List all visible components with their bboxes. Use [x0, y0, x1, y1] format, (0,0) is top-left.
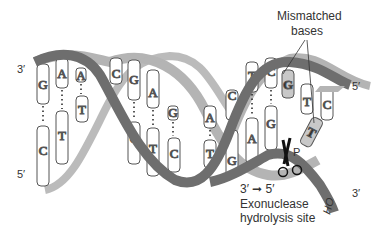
end-label-bottom-left: 5′ [17, 168, 25, 180]
base-bottom-3: T [78, 102, 86, 117]
mismatched-label-line1: Mismatched [277, 9, 342, 23]
mismatched-base-g: G [283, 77, 293, 92]
base-top-14: C [323, 97, 332, 112]
base-top-3: A [76, 68, 86, 83]
base-bottom-8: G [227, 153, 236, 168]
direction-label: 3′ ➞ 5′ [240, 182, 275, 196]
base-top-6: A [148, 85, 158, 100]
base-top-4: C [112, 66, 121, 81]
base-top-13: T [303, 94, 311, 109]
base-top-2: A [57, 66, 67, 81]
base-top-9: C [228, 88, 237, 103]
dna-diagram: G C A T A T C G C A T G C A T C G T A C … [0, 0, 386, 236]
base-bottom-1: C [39, 143, 48, 158]
mismatched-label-line2: bases [291, 24, 323, 38]
end-label-bottom-right: 3′ [352, 187, 360, 199]
base-top-1: G [38, 77, 47, 92]
base-top-5: G [129, 72, 138, 87]
base-bottom-10: G [266, 116, 275, 131]
base-bottom-2: T [58, 128, 66, 143]
base-bottom-9: A [247, 131, 257, 146]
strand-end-5prime [315, 86, 345, 92]
phosphate-label: P [293, 146, 300, 158]
base-top-7: G [168, 105, 177, 120]
site-label-line1: Exonuclease [240, 197, 309, 211]
base-top-8: A [205, 110, 215, 125]
end-label-top-right: 5′ [352, 80, 360, 92]
end-label-top-left: 3′ [17, 63, 25, 75]
base-bottom-6: C [170, 146, 179, 161]
site-label-line2: hydrolysis site [240, 211, 316, 225]
